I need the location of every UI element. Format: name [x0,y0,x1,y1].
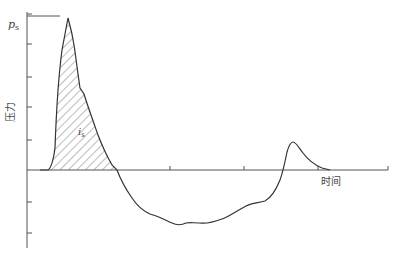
x-axis-ticks [170,166,388,170]
peak-pressure-label: ps [8,18,19,32]
blast-pressure-chart: ps is 压力 时间 [0,0,398,257]
y-axis-label: 压力 [4,102,16,122]
y-axis-ticks [27,14,32,233]
x-axis-label: 时间 [321,175,341,187]
